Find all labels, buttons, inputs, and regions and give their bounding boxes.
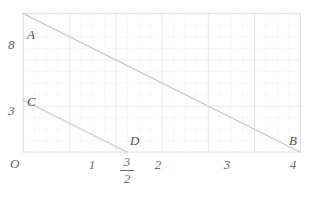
x-tick-label-2: 2 — [152, 158, 164, 171]
y-tick-label-8: 8 — [8, 38, 15, 51]
point-label-a: A — [27, 28, 35, 41]
x-tick-label-4: 4 — [287, 158, 299, 171]
x-tick-label-1: 1 — [86, 158, 98, 171]
point-label-d: D — [130, 134, 139, 147]
x-tick-label-3: 3 — [221, 158, 233, 171]
point-label-b: B — [289, 134, 297, 147]
origin-label: O — [10, 157, 19, 170]
x-tick-label-three-halves: 3 2 — [120, 155, 134, 185]
fraction-denominator: 2 — [120, 172, 134, 186]
figure-canvas: 8 3 O 1 3 2 2 3 4 A B C D — [0, 0, 312, 199]
point-label-c: C — [27, 95, 36, 108]
fraction-numerator: 3 — [120, 155, 134, 169]
y-tick-label-3: 3 — [8, 104, 15, 117]
